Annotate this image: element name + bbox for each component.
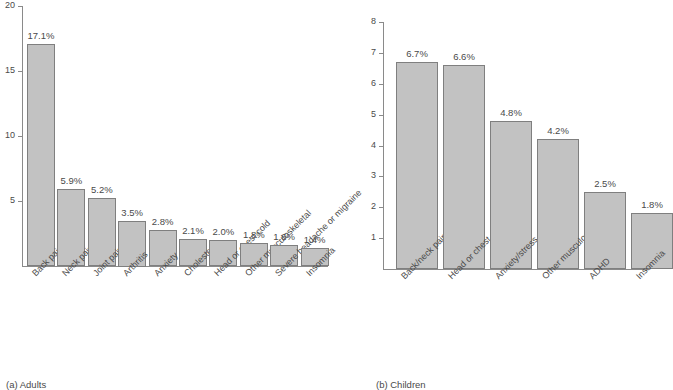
children-y-tick-label: 7 (353, 48, 376, 57)
chart-panel-adults: 510152017.1%Back pain5.9%Neck pain5.2%Jo… (0, 0, 340, 390)
children-y-tick-label: 8 (353, 17, 376, 26)
bar (27, 44, 55, 266)
bar-value-label: 6.6% (453, 52, 475, 62)
adults-y-tick-label: 15 (0, 66, 15, 75)
children-y-tick-label: 6 (353, 79, 376, 88)
adults-y-tick (18, 71, 22, 72)
bar-value-label: 2.5% (594, 179, 616, 189)
bar-value-label: 5.9% (61, 176, 83, 186)
children-y-tick (379, 53, 383, 54)
children-y-tick (379, 84, 383, 85)
bar-value-label: 2.8% (152, 217, 174, 227)
bar-value-label: 2.1% (182, 226, 204, 236)
bar-value-label: 6.7% (406, 49, 428, 59)
bar (396, 62, 438, 269)
adults-y-tick (18, 201, 22, 202)
adults-y-tick-label: 10 (0, 131, 15, 140)
bar-value-label: 4.8% (500, 108, 522, 118)
children-y-tick (379, 115, 383, 116)
children-y-tick-label: 2 (353, 202, 376, 211)
bar-value-label: 1.8% (641, 200, 663, 210)
adults-y-axis-line (22, 6, 23, 266)
children-y-tick-label: 1 (353, 233, 376, 242)
bar-value-label: 5.2% (91, 185, 113, 195)
bar-value-label: 2.0% (213, 227, 235, 237)
children-y-tick (379, 146, 383, 147)
children-y-tick (379, 176, 383, 177)
children-x-axis-line (383, 269, 647, 270)
adults-y-tick (18, 6, 22, 7)
children-y-axis-line (383, 22, 384, 269)
bar-value-label: 3.5% (121, 208, 143, 218)
caption-children: (b) Children (376, 379, 426, 390)
bar-value-label: 4.2% (547, 126, 569, 136)
adults-y-tick-label: 5 (0, 196, 15, 205)
children-y-tick-label: 5 (353, 110, 376, 119)
children-y-tick (379, 22, 383, 23)
bar-value-label: 1.8% (243, 230, 265, 240)
children-y-tick-label: 3 (353, 171, 376, 180)
bar-value-label: 17.1% (28, 31, 55, 41)
children-y-tick (379, 238, 383, 239)
caption-adults: (a) Adults (6, 379, 46, 390)
chart-panel-children: 123456786.7%Back/neck pain6.6%Head or ch… (340, 0, 651, 390)
adults-y-tick-label: 20 (0, 1, 15, 10)
bar-value-label: 1.4% (304, 235, 326, 245)
children-y-tick-label: 4 (353, 141, 376, 150)
plot-area-adults: 510152017.1%Back pain5.9%Neck pain5.2%Jo… (0, 0, 340, 390)
children-y-tick (379, 207, 383, 208)
adults-y-tick (18, 136, 22, 137)
bar (443, 65, 485, 269)
bar-value-label: 1.6% (273, 232, 295, 242)
plot-area-children: 123456786.7%Back/neck pain6.6%Head or ch… (340, 0, 651, 390)
